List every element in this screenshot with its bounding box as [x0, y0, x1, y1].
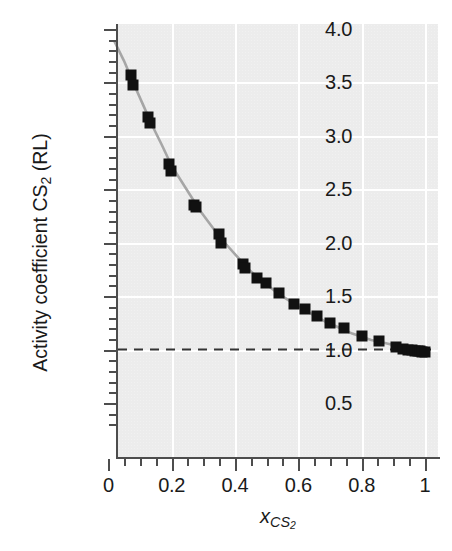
y-tick-minor — [109, 93, 116, 95]
x-axis-ticks — [0, 459, 452, 473]
x-axis-subscript-species: CS — [270, 514, 290, 530]
data-point — [356, 330, 367, 341]
x-tick-minor — [267, 459, 269, 466]
data-point — [420, 346, 431, 357]
y-tick-minor — [109, 179, 116, 181]
y-axis-title: Activity coefficient CS2 (RL) — [29, 43, 52, 463]
y-tick-major — [104, 350, 116, 352]
y-tick-minor — [109, 307, 116, 309]
x-tick-major — [235, 459, 237, 471]
y-tick-minor — [109, 414, 116, 416]
y-tick-label: 3.0 — [325, 124, 352, 147]
x-tick-label: 0.2 — [158, 474, 185, 497]
y-tick-minor — [109, 318, 116, 320]
y-tick-minor — [109, 285, 116, 287]
x-tick-label: 1 — [420, 474, 431, 497]
y-tick-minor — [109, 211, 116, 213]
y-tick-minor — [109, 424, 116, 426]
data-point — [191, 202, 202, 213]
x-tick-minor — [251, 459, 253, 466]
x-tick-minor — [203, 459, 205, 466]
x-tick-label: 0.4 — [222, 474, 249, 497]
y-tick-minor — [109, 114, 116, 116]
data-point — [128, 79, 139, 90]
data-point — [274, 287, 285, 298]
data-point — [324, 317, 335, 328]
y-tick-minor — [109, 382, 116, 384]
x-tick-minor — [140, 459, 142, 466]
x-tick-minor — [330, 459, 332, 466]
x-tick-minor — [409, 459, 411, 466]
x-axis-title-subscript: CS2 — [270, 514, 296, 530]
y-axis-title-subscript: 2 — [37, 177, 53, 185]
data-point — [261, 278, 272, 289]
y-tick-minor — [109, 147, 116, 149]
x-tick-minor — [346, 459, 348, 466]
y-tick-major — [104, 243, 116, 245]
data-point — [216, 237, 227, 248]
y-tick-major — [104, 82, 116, 84]
y-tick-label: 3.5 — [325, 71, 352, 94]
y-tick-major — [104, 403, 116, 405]
x-tick-minor — [219, 459, 221, 466]
y-tick-minor — [109, 50, 116, 52]
x-tick-minor — [282, 459, 284, 466]
y-axis-line — [116, 24, 118, 458]
x-tick-minor — [314, 459, 316, 466]
y-tick-major — [104, 136, 116, 138]
x-tick-minor — [124, 459, 126, 466]
data-point — [299, 303, 310, 314]
data-point — [312, 311, 323, 322]
x-tick-label: 0.8 — [348, 474, 375, 497]
x-tick-major — [362, 459, 364, 471]
x-tick-minor — [187, 459, 189, 466]
y-tick-minor — [109, 339, 116, 341]
x-axis-subscript-number: 2 — [290, 520, 296, 531]
x-tick-major — [172, 459, 174, 471]
y-tick-minor — [109, 253, 116, 255]
y-tick-minor — [109, 221, 116, 223]
y-tick-minor — [109, 40, 116, 42]
y-tick-minor — [109, 61, 116, 63]
y-tick-minor — [109, 264, 116, 266]
x-tick-major — [108, 459, 110, 471]
y-tick-minor — [109, 104, 116, 106]
y-tick-minor — [109, 72, 116, 74]
data-point — [374, 336, 385, 347]
y-tick-label: 2.5 — [325, 178, 352, 201]
x-tick-minor — [393, 459, 395, 466]
x-axis-title: xCS2 — [118, 505, 438, 528]
y-tick-minor — [109, 125, 116, 127]
y-tick-minor — [109, 232, 116, 234]
y-axis-title-suffix: (RL) — [29, 133, 51, 176]
x-tick-minor — [156, 459, 158, 466]
x-tick-major — [425, 459, 427, 471]
y-tick-major — [104, 29, 116, 31]
y-tick-minor — [109, 168, 116, 170]
y-tick-minor — [109, 200, 116, 202]
x-tick-major — [298, 459, 300, 471]
x-tick-label: 0 — [103, 474, 114, 497]
data-point — [166, 166, 177, 177]
y-tick-label: 4.0 — [325, 18, 352, 41]
y-tick-label: 2.0 — [325, 231, 352, 254]
y-tick-major — [104, 296, 116, 298]
data-point — [145, 118, 156, 129]
activity-coefficient-chart: 0.51.01.52.02.53.03.54.0 00.20.40.60.81 … — [0, 0, 452, 551]
data-point — [240, 263, 251, 274]
y-tick-minor — [109, 275, 116, 277]
x-axis-title-text: x — [260, 505, 270, 527]
x-tick-minor — [377, 459, 379, 466]
y-tick-minor — [109, 392, 116, 394]
y-tick-minor — [109, 157, 116, 159]
y-tick-major — [104, 189, 116, 191]
y-axis-title-text: Activity coefficient CS — [29, 185, 51, 372]
y-tick-minor — [109, 360, 116, 362]
y-tick-label: 0.5 — [325, 392, 352, 415]
x-tick-label: 0.6 — [285, 474, 312, 497]
data-point — [339, 323, 350, 334]
y-tick-minor — [109, 371, 116, 373]
data-point — [288, 298, 299, 309]
y-tick-label: 1.0 — [325, 338, 352, 361]
y-tick-label: 1.5 — [325, 285, 352, 308]
